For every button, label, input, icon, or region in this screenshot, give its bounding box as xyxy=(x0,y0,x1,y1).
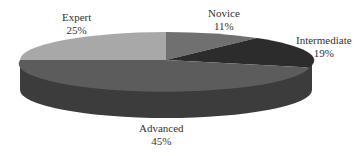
label-novice-name: Novice xyxy=(208,7,240,20)
label-intermediate-pct: 19% xyxy=(296,47,352,60)
label-expert-pct: 25% xyxy=(62,24,91,37)
label-advanced: Advanced 45% xyxy=(139,122,184,148)
label-advanced-name: Advanced xyxy=(139,122,184,135)
label-novice: Novice 11% xyxy=(208,7,240,33)
label-intermediate: Intermediate 19% xyxy=(296,34,352,60)
label-novice-pct: 11% xyxy=(208,20,240,33)
label-expert-name: Expert xyxy=(62,11,91,24)
label-intermediate-name: Intermediate xyxy=(296,34,352,47)
label-advanced-pct: 45% xyxy=(139,135,184,148)
label-expert: Expert 25% xyxy=(62,11,91,37)
pie-chart: Expert 25% Novice 11% Intermediate 19% A… xyxy=(0,0,360,156)
slice-expert xyxy=(20,32,166,60)
